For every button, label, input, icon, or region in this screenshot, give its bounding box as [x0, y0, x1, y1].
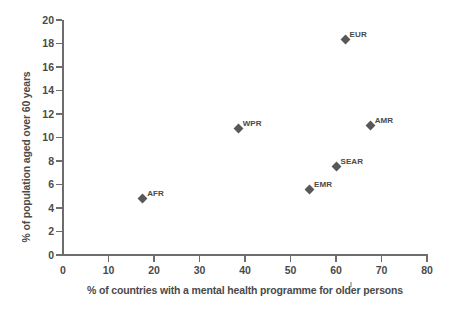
- x-axis-title: % of countries with a mental health prog…: [63, 284, 427, 296]
- x-tick-mark: [153, 256, 154, 262]
- data-point-label-sear: SEAR: [341, 158, 364, 166]
- x-tick-label: 70: [367, 265, 397, 276]
- y-tick-label: 0: [22, 250, 54, 261]
- y-tick-mark: [56, 207, 62, 208]
- y-tick-mark: [56, 66, 62, 67]
- x-tick-label: 20: [139, 265, 169, 276]
- y-tick-label: 2: [22, 226, 54, 237]
- x-tick-label: 30: [185, 265, 215, 276]
- y-tick-mark: [56, 19, 62, 20]
- y-tick-mark: [56, 137, 62, 138]
- y-tick-mark: [56, 43, 62, 44]
- x-tick-mark: [244, 256, 245, 262]
- y-tick-label: 12: [22, 109, 54, 120]
- y-tick-mark: [56, 160, 62, 161]
- scatter-chart: % of population aged over 60 years 02468…: [0, 0, 453, 312]
- data-point-label-wpr: WPR: [243, 120, 262, 128]
- y-tick-label: 20: [22, 15, 54, 26]
- y-tick-mark: [56, 231, 62, 232]
- y-tick-label: 8: [22, 156, 54, 167]
- plot-area: [63, 20, 427, 255]
- y-tick-label: 6: [22, 179, 54, 190]
- y-tick-label: 18: [22, 38, 54, 49]
- data-point-label-amr: AMR: [375, 117, 394, 125]
- x-tick-mark: [108, 256, 109, 262]
- y-tick-label: 14: [22, 85, 54, 96]
- y-tick-label: 10: [22, 132, 54, 143]
- x-tick-mark: [335, 256, 336, 262]
- x-tick-label: 40: [230, 265, 260, 276]
- x-tick-label: 80: [412, 265, 442, 276]
- x-tick-label: 0: [48, 265, 78, 276]
- y-tick-label: 16: [22, 62, 54, 73]
- data-point-label-afr: AFR: [147, 190, 164, 198]
- x-tick-mark: [290, 256, 291, 262]
- x-tick-label: 50: [276, 265, 306, 276]
- x-tick-mark: [199, 256, 200, 262]
- y-tick-mark: [56, 113, 62, 114]
- y-tick-mark: [56, 254, 62, 255]
- data-point-label-eur: EUR: [350, 31, 367, 39]
- y-tick-mark: [56, 184, 62, 185]
- x-tick-label: 10: [94, 265, 124, 276]
- data-point-label-emr: EMR: [314, 181, 332, 189]
- x-tick-label: 60: [321, 265, 351, 276]
- y-tick-mark: [56, 90, 62, 91]
- x-tick-mark: [426, 256, 427, 262]
- x-tick-mark: [381, 256, 382, 262]
- y-tick-label: 4: [22, 203, 54, 214]
